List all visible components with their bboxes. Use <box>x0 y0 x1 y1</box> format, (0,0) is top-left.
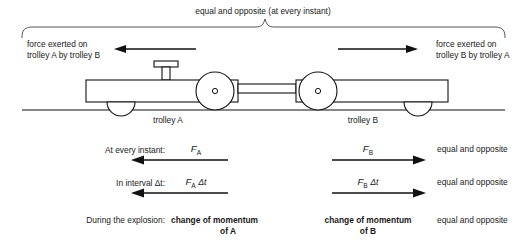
row-instant: At every instant: FA FB equal and opposi… <box>105 143 508 165</box>
row-instant-left-symbol: FA <box>191 143 202 156</box>
curly-brace-icon <box>22 19 505 38</box>
row-explosion-right-line1: change of momentum <box>324 215 411 225</box>
force-label-left: force exerted on trolley A by trolley B <box>27 39 100 60</box>
trolley-b-label: trolley B <box>348 115 379 125</box>
top-caption: equal and opposite (at every instant) <box>195 6 331 16</box>
diagram-canvas: equal and opposite (at every instant) fo… <box>0 0 526 249</box>
force-label-left-line2: trolley A by trolley B <box>27 50 100 60</box>
row-instant-note: equal and opposite <box>437 144 508 154</box>
physics-diagram-page: equal and opposite (at every instant) fo… <box>0 0 526 249</box>
row-interval-right-symbol: FBΔt <box>357 176 379 189</box>
row-explosion-note: equal and opposite <box>437 215 508 225</box>
row-interval-label: In interval Δt: <box>116 178 165 188</box>
plunger-icon <box>154 61 178 80</box>
row-instant-right-arrow-icon <box>332 156 426 165</box>
trolley-b-hub-icon <box>315 88 320 93</box>
trolley-a-label: trolley A <box>153 115 183 125</box>
row-explosion-left-line2: of A <box>220 226 236 236</box>
row-explosion-label: During the explosion: <box>86 215 165 225</box>
row-interval-note: equal and opposite <box>437 177 508 187</box>
connecting-rod <box>238 84 296 93</box>
row-explosion-left-line1: change of momentum <box>171 215 258 225</box>
force-label-right-line2: trolley B by trolley A <box>436 50 510 60</box>
trolley-a-rear-wheel-icon <box>107 102 135 116</box>
row-instant-left-arrow-icon <box>131 156 228 165</box>
arrow-left-icon <box>114 45 196 53</box>
row-interval-left-arrow-icon <box>131 189 228 198</box>
force-label-left-line1: force exerted on <box>27 39 88 49</box>
trolley-b: trolley B <box>296 72 448 125</box>
row-instant-label: At every instant: <box>105 145 165 155</box>
row-interval-left-symbol: FAΔt <box>185 176 207 189</box>
trolley-a: trolley A <box>86 61 238 125</box>
trolley-b-rear-wheel-icon <box>404 102 432 116</box>
row-explosion: During the explosion: change of momentum… <box>86 215 508 236</box>
row-explosion-right-line2: of B <box>360 226 376 236</box>
force-label-right-line1: force exerted on <box>436 39 497 49</box>
arrow-right-icon <box>338 45 418 53</box>
row-interval-right-arrow-icon <box>332 189 426 198</box>
force-label-right: force exerted on trolley B by trolley A <box>436 39 510 60</box>
row-interval: In interval Δt: FAΔt FBΔt equal and oppo… <box>116 176 508 198</box>
row-instant-right-symbol: FB <box>363 143 374 156</box>
trolley-a-hub-icon <box>212 88 217 93</box>
